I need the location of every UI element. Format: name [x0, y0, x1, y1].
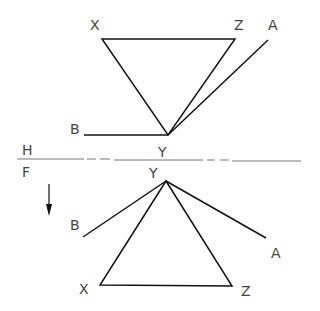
label-top-x: X	[90, 17, 100, 33]
label-front-y: Y	[148, 165, 158, 181]
label-front-a: A	[271, 245, 281, 261]
top-line-ya	[168, 40, 268, 135]
projection-diagram: X Z A B Y H F Y B A X Z	[0, 0, 320, 311]
top-view: X Z A B Y	[70, 17, 278, 160]
label-h: H	[22, 142, 33, 158]
label-top-y: Y	[157, 144, 167, 160]
front-line-ya	[166, 181, 266, 238]
label-front-b: B	[70, 217, 80, 233]
front-line-yb	[83, 181, 166, 237]
label-f: F	[22, 164, 30, 180]
label-top-a: A	[268, 17, 278, 33]
label-front-x: X	[79, 281, 89, 297]
down-arrow-icon	[46, 184, 52, 216]
label-top-b: B	[70, 121, 80, 137]
label-top-z: Z	[234, 17, 244, 33]
front-triangle-xyz	[100, 181, 232, 286]
top-triangle-xyz	[102, 39, 235, 135]
label-front-z: Z	[241, 283, 251, 299]
front-view: Y B A X Z	[70, 165, 281, 299]
